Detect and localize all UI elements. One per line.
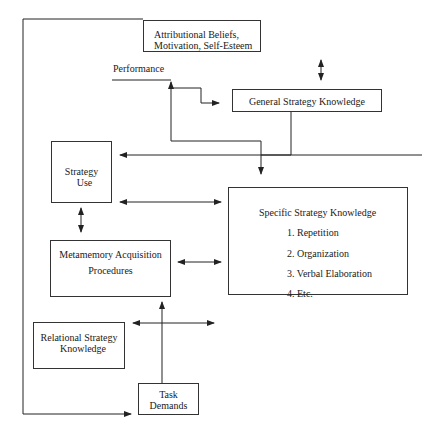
relational-line1: Relational Strategy [34,332,124,343]
strategy-use-line1: Strategy [52,166,111,177]
attributional-line2: Motivation, Self-Esteem [154,40,260,51]
general-strategy-knowledge-box: General Strategy Knowledge [232,89,382,112]
strategy-item: 2. Organization [287,248,349,259]
specific-strategy-title: Specific Strategy Knowledge [259,207,376,218]
metamemory-line1: Metamemory Acquisition [51,249,170,260]
attributional-beliefs-box: Attributional Beliefs, Motivation, Self-… [143,20,261,52]
strategy-use-line2: Use [52,177,111,188]
strategy-use-box: Strategy Use [51,141,112,203]
strategy-item: 3. Verbal Elaboration [287,268,372,279]
attributional-line1: Attributional Beliefs, [154,29,260,40]
specific-strategy-knowledge-box: Specific Strategy Knowledge 1. Repetitio… [228,187,408,295]
task-line2: Demands [139,400,198,411]
metamemory-acquisition-box: Metamemory Acquisition Procedures [50,240,171,297]
task-line1: Task [139,389,198,400]
performance-label: Performance [113,63,164,74]
strategy-item: 1. Repetition [287,227,339,238]
task-demands-box: Task Demands [138,383,199,415]
strategy-item: 4. Etc. [287,288,313,299]
relational-line2: Knowledge [34,343,124,354]
general-strategy-text: General Strategy Knowledge [249,96,365,107]
metamemory-line2: Procedures [51,265,170,276]
relational-strategy-knowledge-box: Relational Strategy Knowledge [33,322,125,369]
